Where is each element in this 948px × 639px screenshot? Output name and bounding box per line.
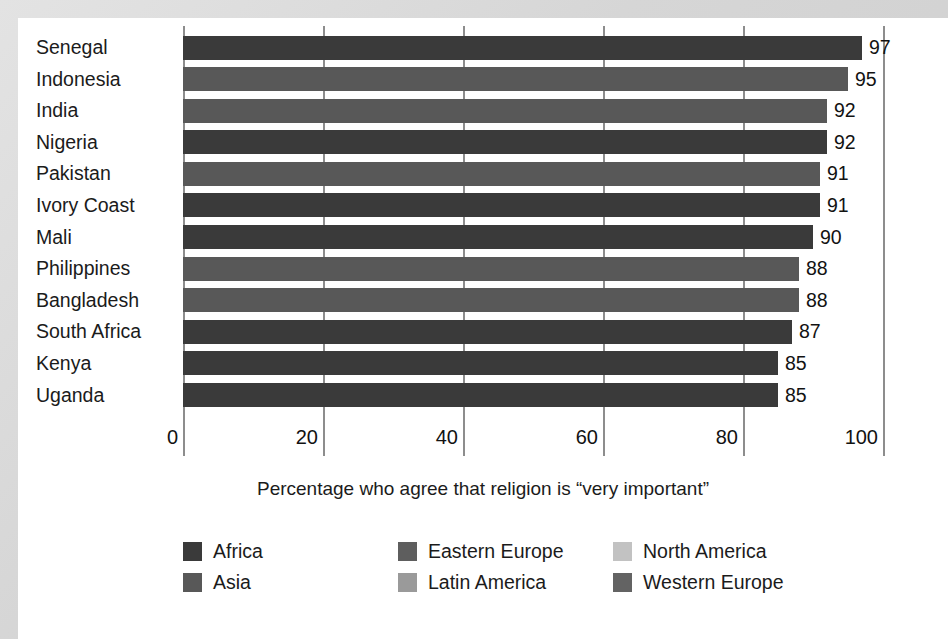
legend-label: Latin America — [428, 571, 546, 594]
legend-swatch-icon — [398, 542, 417, 561]
x-tick-label: 0 — [167, 426, 183, 449]
bar-value-label: 85 — [778, 383, 807, 407]
chart-legend: AfricaEastern EuropeNorth AmericaAsiaLat… — [183, 536, 823, 598]
x-axis-title: Percentage who agree that religion is “v… — [18, 478, 948, 500]
category-label: India — [18, 95, 166, 127]
bar-row: 88 — [183, 253, 883, 285]
x-tick-label: 100 — [845, 426, 883, 449]
x-axis-tick-labels: 020406080100 — [183, 426, 883, 456]
bar-row: 91 — [183, 190, 883, 222]
legend-item: North America — [613, 540, 823, 563]
bar-value-label: 91 — [820, 193, 849, 217]
category-label: Indonesia — [18, 64, 166, 96]
bar-row: 88 — [183, 285, 883, 317]
plot-area: 979592929191908888878585 — [183, 32, 883, 424]
category-label: Nigeria — [18, 127, 166, 159]
bar-chart: SenegalIndonesiaIndiaNigeriaPakistanIvor… — [18, 18, 948, 478]
category-label: Pakistan — [18, 158, 166, 190]
gridline — [883, 26, 885, 456]
bar-value-label: 88 — [799, 288, 828, 312]
legend-label: Western Europe — [643, 571, 784, 594]
legend-item: Latin America — [398, 571, 613, 594]
bar — [183, 162, 820, 186]
bar — [183, 351, 778, 375]
bar-row: 97 — [183, 32, 883, 64]
category-label: Kenya — [18, 348, 166, 380]
bar-row: 92 — [183, 95, 883, 127]
legend-label: Eastern Europe — [428, 540, 564, 563]
legend-swatch-icon — [613, 573, 632, 592]
category-label: Bangladesh — [18, 285, 166, 317]
page-background: SenegalIndonesiaIndiaNigeriaPakistanIvor… — [0, 0, 948, 639]
bar — [183, 257, 799, 281]
legend-item: Eastern Europe — [398, 540, 613, 563]
bar — [183, 383, 778, 407]
bar — [183, 193, 820, 217]
legend-label: North America — [643, 540, 767, 563]
legend-swatch-icon — [183, 573, 202, 592]
bar-row: 91 — [183, 158, 883, 190]
bar-row: 95 — [183, 64, 883, 96]
legend-item: Africa — [183, 540, 398, 563]
category-axis-labels: SenegalIndonesiaIndiaNigeriaPakistanIvor… — [18, 32, 166, 411]
bar — [183, 36, 862, 60]
bar-value-label: 88 — [799, 256, 828, 280]
x-tick-label: 60 — [576, 426, 603, 449]
bar-value-label: 91 — [820, 161, 849, 185]
bar-value-label: 90 — [813, 225, 842, 249]
bar-row: 92 — [183, 127, 883, 159]
category-label: Senegal — [18, 32, 166, 64]
legend-item: Asia — [183, 571, 398, 594]
bar-value-label: 95 — [848, 67, 877, 91]
bar-row: 85 — [183, 380, 883, 412]
bar-value-label: 92 — [827, 130, 856, 154]
category-label: Uganda — [18, 380, 166, 412]
bar — [183, 288, 799, 312]
bar — [183, 130, 827, 154]
x-tick-label: 20 — [296, 426, 323, 449]
bar — [183, 99, 827, 123]
legend-swatch-icon — [398, 573, 417, 592]
legend-label: Africa — [213, 540, 263, 563]
x-tick-label: 40 — [436, 426, 463, 449]
bar-row: 90 — [183, 222, 883, 254]
bar-row: 87 — [183, 316, 883, 348]
bar-value-label: 85 — [778, 351, 807, 375]
category-label: South Africa — [18, 316, 166, 348]
bar-value-label: 87 — [792, 319, 821, 343]
bar — [183, 320, 792, 344]
category-label: Philippines — [18, 253, 166, 285]
legend-label: Asia — [213, 571, 251, 594]
bar — [183, 67, 848, 91]
legend-item: Western Europe — [613, 571, 823, 594]
bar-value-label: 97 — [862, 35, 891, 59]
bar-series: 979592929191908888878585 — [183, 32, 883, 424]
bar-value-label: 92 — [827, 98, 856, 122]
x-tick-label: 80 — [716, 426, 743, 449]
category-label: Mali — [18, 222, 166, 254]
legend-swatch-icon — [183, 542, 202, 561]
category-label: Ivory Coast — [18, 190, 166, 222]
bar — [183, 225, 813, 249]
bar-row: 85 — [183, 348, 883, 380]
chart-panel: SenegalIndonesiaIndiaNigeriaPakistanIvor… — [18, 18, 948, 639]
legend-swatch-icon — [613, 542, 632, 561]
